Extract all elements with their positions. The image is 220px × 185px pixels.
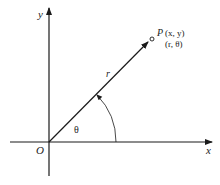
point-p-marker: [150, 37, 154, 41]
ray-label: r: [106, 68, 110, 79]
polar-diagram: y x O P (x, y) (r, θ) r θ: [0, 0, 220, 185]
angle-label: θ: [74, 124, 79, 135]
radius-ray: [49, 42, 148, 142]
y-axis-label: y: [37, 8, 43, 20]
origin-label: O: [36, 144, 44, 156]
point-name-label: P: [156, 27, 163, 38]
angle-arc: [97, 95, 116, 142]
x-axis-label: x: [205, 144, 211, 156]
point-polar-label: (r, θ): [165, 39, 182, 49]
point-cartesian-label: (x, y): [165, 28, 185, 38]
